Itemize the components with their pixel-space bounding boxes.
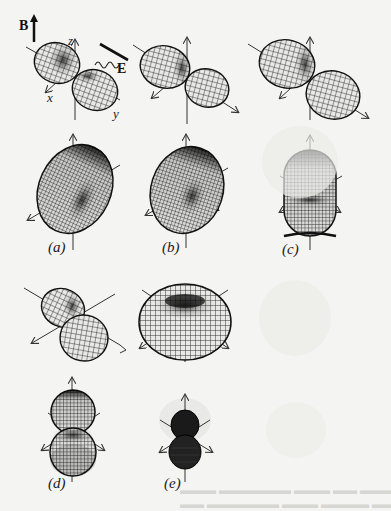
panel-a-label: (a) bbox=[48, 239, 66, 256]
panel-top-1: E z x y bbox=[26, 33, 128, 121]
e-field-bar bbox=[100, 44, 128, 60]
bleed-through-text: ▬▬ ▬▬▬▬▬▬ ▬▬▬ ▬▬▬▬ ▬▬▬▬▬▬▬ ▬▬▬▬ ▬▬ ▬▬▬▬ bbox=[180, 497, 391, 511]
panel-top-2 bbox=[133, 38, 238, 124]
panel-b-label: (b) bbox=[162, 239, 180, 256]
panel-c-label: (c) bbox=[282, 241, 299, 258]
b-field-label: B bbox=[19, 18, 28, 33]
x-axis-label: x bbox=[46, 90, 53, 105]
bleed-through-text: ▬▬▬ ▬▬▬▬▬▬ ▬▬▬ ▬▬ ▬▬▬▬▬▬ ▬ ▬▬▬▬ ▬▬ ▬▬▬ ▬… bbox=[180, 483, 391, 498]
radiation-pattern-figure: B E z x y bbox=[0, 0, 391, 511]
y-axis-label: y bbox=[111, 106, 119, 121]
panel-e: (e) bbox=[159, 395, 212, 492]
magnetic-field-indicator: B bbox=[19, 14, 38, 42]
bleed-through-shape bbox=[266, 402, 326, 458]
panel-e-label: (e) bbox=[164, 475, 181, 492]
photon-wave-icon bbox=[95, 62, 119, 68]
e-field-label: E bbox=[117, 61, 126, 76]
figure-canvas: B E z x y bbox=[0, 0, 391, 511]
panel-a: (a) bbox=[23, 132, 127, 256]
bleed-through-shape bbox=[262, 126, 338, 198]
z-axis-label: z bbox=[67, 33, 73, 48]
panel-b: (b) bbox=[139, 135, 235, 256]
panel-d-label: (d) bbox=[48, 475, 66, 492]
panel-top-3 bbox=[248, 34, 368, 126]
panel-mid-1 bbox=[24, 281, 126, 364]
b-field-arrowhead bbox=[30, 14, 38, 22]
panel-mid-2 bbox=[139, 284, 231, 362]
panel-d: (d) bbox=[42, 378, 104, 492]
bleed-through-shape bbox=[259, 280, 331, 356]
